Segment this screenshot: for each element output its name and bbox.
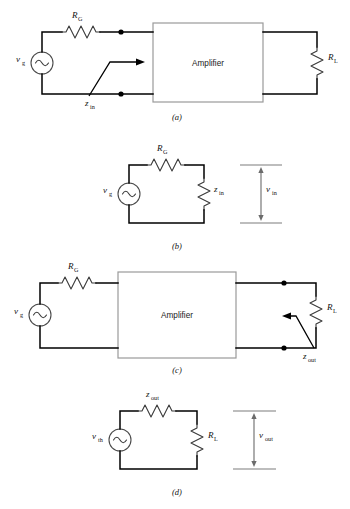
circuit-figure: Amplifier v g R G z in R L (a) (0, 0, 350, 509)
panel-caption-d: (d) (172, 487, 182, 497)
rl-label-d: R (207, 430, 214, 440)
panel-caption-a: (a) (172, 112, 182, 122)
source-sublabel-c: g (20, 311, 23, 318)
wire-a-out-top (263, 32, 317, 47)
vout-sublabel-d: out (265, 435, 273, 442)
measure-arrowhead-down-b (258, 215, 263, 221)
wire-a-top-left (42, 32, 62, 52)
wire-d-top-left (120, 411, 138, 429)
wire-b-bottom (129, 205, 204, 223)
rg-label-b: R (156, 143, 163, 153)
panel-caption-c: (c) (172, 365, 182, 375)
node-dot-c-top (281, 280, 286, 285)
panel-a: Amplifier v g R G z in R L (a) (16, 10, 338, 122)
amplifier-label-a: Amplifier (192, 59, 224, 68)
zout-pointer-c (291, 316, 314, 348)
zout-sublabel-c: out (308, 356, 316, 363)
zout-sublabel-d: out (151, 394, 159, 401)
resistor-rl-d (191, 424, 203, 456)
wire-c-bottom (40, 326, 118, 348)
zout-label-d: z (145, 389, 150, 399)
rg-label-c: R (67, 261, 74, 271)
rg-sublabel-b: G (163, 148, 168, 155)
resistor-zin-b (198, 178, 210, 210)
source-label-d: v (92, 431, 96, 441)
zin-label-b: z (213, 184, 218, 194)
wire-d-bottom (120, 451, 197, 469)
source-label-c: v (14, 306, 18, 316)
resistor-rg-c (58, 277, 96, 289)
node-dot-c-bottom (281, 345, 286, 350)
wire-b-top-left (129, 165, 147, 183)
resistor-rl-a (311, 47, 323, 79)
source-sublabel-b: g (109, 190, 112, 197)
source-label-a: v (16, 54, 20, 64)
zin-sublabel-a: in (90, 103, 95, 110)
node-dot-a-top (118, 29, 123, 34)
zout-label-c: z (302, 351, 307, 361)
resistor-zout-d (138, 405, 176, 417)
zin-sublabel-b: in (219, 189, 224, 196)
source-label-b: v (103, 185, 107, 195)
rg-label-a: R (71, 10, 78, 20)
resistor-rg-b (147, 159, 185, 171)
vout-label-d: v (259, 430, 263, 440)
circuit-diagram-canvas: Amplifier v g R G z in R L (a) (0, 0, 350, 509)
resistor-rl-c (310, 296, 322, 328)
rg-sublabel-c: G (74, 266, 79, 273)
panel-caption-b: (b) (172, 241, 182, 251)
zout-arrowhead-c (282, 312, 291, 319)
wire-b-top-right (185, 165, 204, 178)
vin-label-b: v (266, 184, 270, 194)
source-sublabel-a: g (22, 59, 25, 66)
rl-sublabel-a: L (334, 57, 338, 64)
vin-sublabel-b: in (272, 189, 277, 196)
measure-arrowhead-up-b (258, 167, 263, 173)
rl-sublabel-c: L (333, 307, 337, 314)
wire-d-top-right (176, 411, 197, 424)
zin-arrowhead-a (136, 58, 145, 65)
amplifier-label-c: Amplifier (161, 311, 193, 320)
measure-arrowhead-up-d (251, 413, 256, 419)
rl-label-a: R (327, 52, 334, 62)
wire-c-top-left (40, 283, 58, 304)
measure-arrowhead-down-d (251, 461, 256, 467)
node-dot-a-bottom (118, 91, 123, 96)
rl-label-c: R (326, 302, 333, 312)
rg-sublabel-a: G (78, 15, 83, 22)
rl-sublabel-d: L (214, 435, 218, 442)
resistor-rg-a (62, 26, 100, 38)
zin-label-a: z (84, 98, 89, 108)
panel-d: v th z out R L v out (d) (92, 389, 276, 497)
zin-pointer-a (89, 62, 136, 96)
wire-a-out-bottom (263, 79, 317, 94)
source-sublabel-d: th (98, 436, 104, 443)
panel-b: v g R G z in v in (b) (103, 143, 282, 251)
panel-c: Amplifier v g R G R L z out (c) (14, 261, 337, 375)
wire-c-out-top (236, 283, 316, 296)
wire-a-bottom (42, 74, 153, 94)
